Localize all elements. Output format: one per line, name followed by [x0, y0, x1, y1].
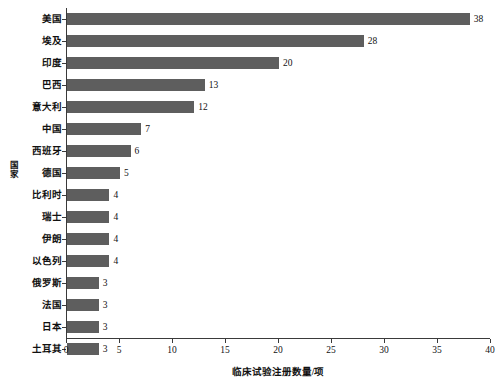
bar-row: 意大利12 [0, 96, 503, 118]
bar-value-label: 12 [198, 96, 208, 118]
y-axis-tick [62, 151, 66, 152]
category-label: 伊朗 [14, 228, 62, 250]
bar-row: 西班牙6 [0, 140, 503, 162]
bar [67, 35, 364, 47]
x-axis-tick-label: 40 [476, 345, 503, 355]
bar-row: 德国5 [0, 162, 503, 184]
bar-value-label: 4 [113, 184, 118, 206]
x-axis-tick-label: 0 [52, 345, 80, 355]
x-axis-tick [490, 339, 491, 343]
x-axis-tick [437, 339, 438, 343]
y-axis-tick [62, 41, 66, 42]
bar-row: 埃及28 [0, 30, 503, 52]
bar-value-label: 28 [368, 30, 378, 52]
category-label: 法国 [14, 294, 62, 316]
category-label: 德国 [14, 162, 62, 184]
y-axis-tick [62, 129, 66, 130]
bar [67, 167, 120, 179]
bar [67, 189, 109, 201]
category-label: 俄罗斯 [14, 272, 62, 294]
bar-row: 比利时4 [0, 184, 503, 206]
bar-value-label: 20 [283, 52, 293, 74]
x-axis-tick [331, 339, 332, 343]
bar-row: 日本3 [0, 316, 503, 338]
x-axis-tick-label: 20 [264, 345, 292, 355]
bar [67, 57, 279, 69]
y-axis-tick [62, 63, 66, 64]
y-axis-tick [62, 239, 66, 240]
bar [67, 101, 194, 113]
category-label: 日本 [14, 316, 62, 338]
x-axis-title: 临床试验注册数量/项 [66, 364, 490, 378]
bar-chart: 国家 美国38埃及28印度20巴西13意大利12中国7西班牙6德国5比利时4瑞士… [0, 0, 503, 386]
y-axis-tick [62, 173, 66, 174]
x-axis-tick [66, 339, 67, 343]
bar-row: 以色列4 [0, 250, 503, 272]
bar-value-label: 13 [209, 74, 219, 96]
bar-value-label: 4 [113, 206, 118, 228]
bar [67, 255, 109, 267]
x-axis-tick-label: 10 [158, 345, 186, 355]
category-label: 巴西 [14, 74, 62, 96]
bar [67, 299, 99, 311]
category-label: 埃及 [14, 30, 62, 52]
bar-row: 印度20 [0, 52, 503, 74]
x-axis-tick [225, 339, 226, 343]
category-label: 中国 [14, 118, 62, 140]
x-axis-tick-label: 25 [317, 345, 345, 355]
x-axis-tick-label: 5 [105, 345, 133, 355]
y-axis-tick [62, 85, 66, 86]
bar-row: 美国38 [0, 8, 503, 30]
bar-row: 巴西13 [0, 74, 503, 96]
x-axis-tick-label: 35 [423, 345, 451, 355]
category-label: 以色列 [14, 250, 62, 272]
x-axis-tick [119, 339, 120, 343]
bar [67, 79, 205, 91]
bar-value-label: 6 [135, 140, 140, 162]
bar [67, 321, 99, 333]
category-label: 美国 [14, 8, 62, 30]
bar-row: 法国3 [0, 294, 503, 316]
y-axis-tick [62, 107, 66, 108]
y-axis-tick [62, 19, 66, 20]
bar [67, 145, 131, 157]
bar-value-label: 7 [145, 118, 150, 140]
y-axis-tick [62, 283, 66, 284]
x-axis-tick [384, 339, 385, 343]
bar-row: 中国7 [0, 118, 503, 140]
bar-value-label: 4 [113, 228, 118, 250]
category-label: 意大利 [14, 96, 62, 118]
x-axis-tick-label: 30 [370, 345, 398, 355]
bar-row: 瑞士4 [0, 206, 503, 228]
category-label: 瑞士 [14, 206, 62, 228]
category-label: 比利时 [14, 184, 62, 206]
y-axis-tick [62, 195, 66, 196]
bar [67, 233, 109, 245]
x-axis-tick [278, 339, 279, 343]
bar-value-label: 3 [103, 294, 108, 316]
bar-value-label: 3 [103, 272, 108, 294]
y-axis-tick [62, 261, 66, 262]
category-label: 印度 [14, 52, 62, 74]
bar [67, 211, 109, 223]
x-axis-tick [172, 339, 173, 343]
bar-value-label: 4 [113, 250, 118, 272]
bar [67, 277, 99, 289]
bar-row: 伊朗4 [0, 228, 503, 250]
category-label: 西班牙 [14, 140, 62, 162]
y-axis-tick [62, 327, 66, 328]
y-axis-tick [62, 217, 66, 218]
bar-row: 俄罗斯3 [0, 272, 503, 294]
x-axis-tick-label: 15 [211, 345, 239, 355]
bar-value-label: 3 [103, 316, 108, 338]
bar [67, 123, 141, 135]
bar-value-label: 38 [474, 8, 484, 30]
bar [67, 13, 470, 25]
bar-value-label: 5 [124, 162, 129, 184]
y-axis-tick [62, 305, 66, 306]
